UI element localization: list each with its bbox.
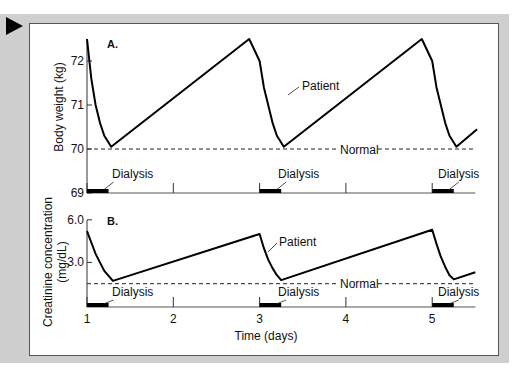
x-tick-label: 2 — [170, 312, 177, 326]
y-axis-label-b-line1: Creatinine concentration — [41, 197, 55, 327]
dialysis-label-a-1: Dialysis — [112, 167, 153, 181]
x-tick-label: 5 — [429, 312, 436, 326]
normal-label-b: Normal — [340, 277, 379, 291]
patient-line — [87, 39, 477, 147]
y-tick-label: 69 — [71, 186, 85, 200]
dialysis-leader — [449, 182, 459, 190]
dialysis-leader — [104, 182, 114, 190]
dialysis-bar — [432, 189, 454, 193]
x-tick-label: 1 — [84, 312, 91, 326]
normal-label-a: Normal — [340, 143, 379, 157]
patient-leader — [268, 243, 277, 252]
chart-canvas: 69707172 3.06.012345 A. B. Body weight (… — [0, 0, 519, 378]
dialysis-bar — [87, 189, 109, 193]
panel-a-label: A. — [107, 38, 118, 50]
dialysis-label-b-3: Dialysis — [438, 285, 479, 299]
y-tick-label: 6.0 — [67, 213, 84, 227]
panel-b-creatinine: 3.06.012345 — [67, 213, 475, 326]
x-tick-label: 4 — [343, 312, 350, 326]
y-axis-label-a: Body weight (kg) — [52, 62, 66, 151]
y-tick-label: 3.0 — [67, 255, 84, 269]
panel-b-label: B. — [107, 215, 118, 227]
patient-leader — [288, 87, 299, 95]
y-tick-label: 71 — [71, 98, 85, 112]
y-axis-label-b-line2: (mg/dL) — [55, 241, 69, 282]
patient-label-b: Patient — [279, 235, 317, 249]
dialysis-leader — [276, 182, 286, 190]
y-tick-label: 72 — [71, 54, 85, 68]
dialysis-label-b-2: Dialysis — [278, 285, 319, 299]
dialysis-label-b-1: Dialysis — [112, 285, 153, 299]
x-tick-label: 3 — [256, 312, 263, 326]
dialysis-label-a-3: Dialysis — [438, 167, 479, 181]
dialysis-bar — [260, 189, 282, 193]
x-axis-label: Time (days) — [235, 329, 298, 343]
y-tick-label: 70 — [71, 142, 85, 156]
dialysis-label-a-2: Dialysis — [278, 167, 319, 181]
patient-label-a: Patient — [302, 79, 340, 93]
